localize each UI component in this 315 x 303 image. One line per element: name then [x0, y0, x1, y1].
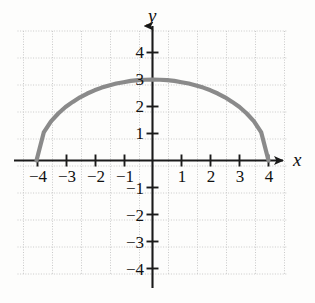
x-tick-label-4: 4: [256, 168, 282, 185]
x-tick-label-neg3: −3: [54, 168, 80, 185]
y-tick-label-neg2: −2: [118, 207, 144, 224]
y-tick-label-1: 1: [118, 125, 144, 142]
x-tick-label-2: 2: [198, 168, 224, 185]
y-tick-label-neg1: −1: [118, 180, 144, 197]
x-tick-label-neg2: −2: [83, 168, 109, 185]
y-tick-label-neg3: −3: [118, 234, 144, 251]
y-axis-label: y: [148, 6, 156, 25]
x-axis-label: x: [293, 150, 301, 169]
coordinate-plane: [0, 0, 315, 303]
x-tick-label-1: 1: [169, 168, 195, 185]
x-tick-label-neg4: −4: [25, 168, 51, 185]
y-tick-label-3: 3: [118, 71, 144, 88]
y-tick-label-4: 4: [118, 44, 144, 61]
y-tick-label-2: 2: [118, 98, 144, 115]
x-tick-label-3: 3: [227, 168, 253, 185]
y-tick-label-neg4: −4: [118, 261, 144, 278]
graph-figure: y x −4 −3 −2 −1 1 2 3 4 4 3 2 1 −1 −2 −3…: [0, 0, 315, 303]
